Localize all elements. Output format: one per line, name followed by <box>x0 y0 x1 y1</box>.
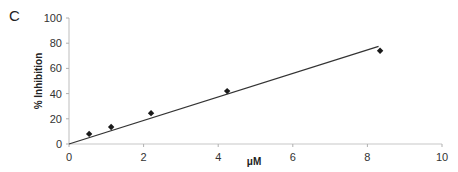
ticks: 0204060801000246810 <box>44 12 448 163</box>
y-tick-label: 20 <box>50 113 62 125</box>
y-tick-label: 60 <box>50 62 62 74</box>
chart: 0204060801000246810 μM % Inhibition <box>0 0 458 172</box>
axes <box>69 18 442 144</box>
y-tick-label: 0 <box>56 138 62 150</box>
x-axis-title: μM <box>247 156 261 167</box>
trendline-group <box>69 46 379 144</box>
y-tick-label: 80 <box>50 37 62 49</box>
data-point <box>86 131 92 137</box>
data-point <box>108 124 114 130</box>
data-point <box>377 48 383 54</box>
y-tick-label: 100 <box>44 12 62 24</box>
x-tick-label: 4 <box>215 151 221 163</box>
x-tick-label: 6 <box>290 151 296 163</box>
y-tick-label: 40 <box>50 88 62 100</box>
x-tick-label: 10 <box>436 151 448 163</box>
x-tick-label: 0 <box>66 151 72 163</box>
x-tick-label: 2 <box>141 151 147 163</box>
trendline <box>69 46 379 144</box>
data-point <box>148 110 154 116</box>
y-axis-title: % Inhibition <box>33 53 44 110</box>
x-tick-label: 8 <box>364 151 370 163</box>
